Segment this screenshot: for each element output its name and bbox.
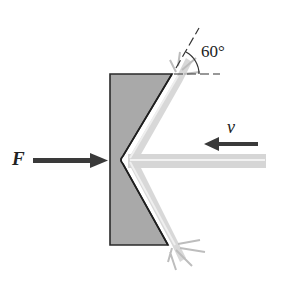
- angle-label: 60°: [201, 42, 225, 62]
- velocity-label: v: [227, 117, 235, 138]
- force-label: F: [12, 148, 25, 170]
- velocity-arrow: [204, 137, 258, 151]
- diagram-canvas: [0, 0, 282, 285]
- force-arrow: [33, 153, 108, 168]
